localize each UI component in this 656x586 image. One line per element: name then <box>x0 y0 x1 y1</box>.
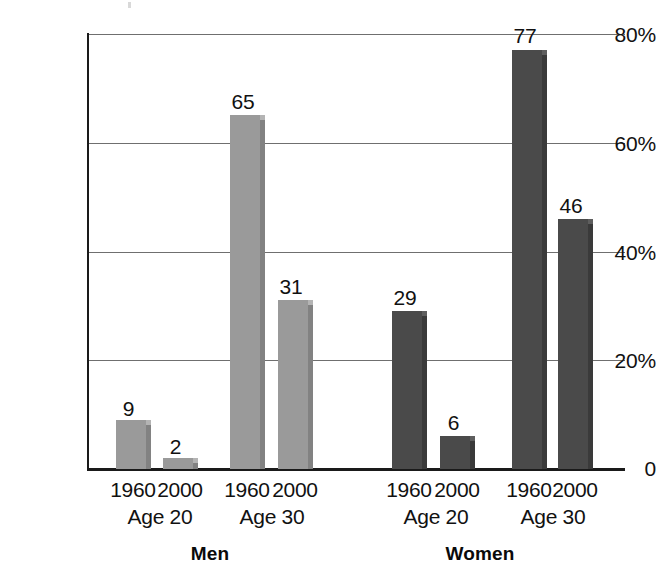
bar-women-age20-2000[interactable] <box>440 436 475 469</box>
bar-value-men-age20-2000: 2 <box>158 436 193 457</box>
bar-chart: 80% 60% 40% 20% 0 9 2 65 31 29 6 <box>0 0 656 586</box>
bar-men-age30-1960[interactable] <box>230 115 265 469</box>
bar-value-women-age20-2000: 6 <box>436 412 471 433</box>
bar-side-face <box>542 55 547 469</box>
bar-front-face <box>278 300 308 469</box>
bar-side-face <box>470 441 475 469</box>
bar-value-women-age30-1960: 77 <box>506 25 544 46</box>
y-tick-label-80: 80% <box>582 24 656 45</box>
bar-value-men-age30-1960: 65 <box>224 91 262 112</box>
bar-side-face <box>308 305 313 469</box>
group-label-men: Men <box>160 543 260 565</box>
bar-value-men-age30-2000: 31 <box>272 276 310 297</box>
bar-women-age30-2000[interactable] <box>558 219 593 469</box>
y-tick-label-0: 0 <box>582 458 656 479</box>
bar-front-face <box>230 115 260 469</box>
bar-men-age20-2000[interactable] <box>163 458 198 469</box>
group-label-women: Women <box>430 543 530 565</box>
bar-men-age30-2000[interactable] <box>278 300 313 469</box>
bar-women-age30-1960[interactable] <box>512 50 547 469</box>
y-axis-line <box>87 33 89 470</box>
bar-side-face <box>422 316 427 469</box>
bar-value-women-age20-1960: 29 <box>386 287 424 308</box>
gridline-80 <box>87 34 625 35</box>
bar-front-face <box>116 420 146 469</box>
bar-men-age20-1960[interactable] <box>116 420 151 469</box>
bar-front-face <box>558 219 588 469</box>
bar-front-face <box>163 458 193 469</box>
x-tick-label-men-age30-2000: 2000 <box>265 479 325 501</box>
x-tick-label-women-age20-2000: 2000 <box>427 479 487 501</box>
bar-front-face <box>512 50 542 469</box>
bar-front-face <box>392 311 422 469</box>
bar-side-face <box>588 224 593 469</box>
y-tick-label-60: 60% <box>582 133 656 154</box>
age-label-men-age30: Age 30 <box>222 506 322 528</box>
bar-front-face <box>440 436 470 469</box>
age-label-women-age20: Age 20 <box>386 506 486 528</box>
age-label-women-age30: Age 30 <box>503 506 603 528</box>
bar-side-face <box>193 463 198 469</box>
bar-side-face <box>146 425 151 469</box>
bar-women-age20-1960[interactable] <box>392 311 427 469</box>
bar-side-face <box>260 120 265 469</box>
age-label-men-age20: Age 20 <box>110 506 210 528</box>
bar-value-men-age20-1960: 9 <box>111 398 146 419</box>
y-tick-label-40: 40% <box>582 242 656 263</box>
x-tick-label-women-age30-2000: 2000 <box>545 479 605 501</box>
bar-value-women-age30-2000: 46 <box>552 195 590 216</box>
x-tick-label-men-age20-2000: 2000 <box>150 479 210 501</box>
scan-artifact <box>128 2 131 8</box>
y-tick-label-20: 20% <box>582 350 656 371</box>
